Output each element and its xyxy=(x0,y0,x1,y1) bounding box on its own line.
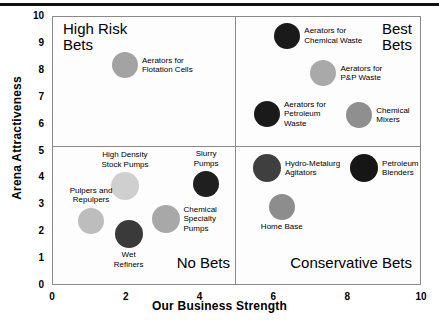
top-divider-rule xyxy=(0,3,439,6)
bubble-aerators-for-flotation-cells[interactable] xyxy=(112,52,138,78)
y-tick-6: 6 xyxy=(22,119,44,129)
bubble-wet-refiners[interactable] xyxy=(115,220,143,248)
quadrant-label-conservative-bets: Conservative Bets xyxy=(290,255,412,271)
quadrant-label-no-bets: No Bets xyxy=(177,255,230,271)
bubble-home-base[interactable] xyxy=(269,194,295,220)
y-tick-4: 4 xyxy=(22,172,44,182)
bubble-label-aerators-for-pp-waste: Aerators for P&P Waste xyxy=(340,64,422,83)
y-tick-2: 2 xyxy=(22,226,44,236)
y-tick-3: 3 xyxy=(22,199,44,209)
bubble-label-aerators-for-flotation-cells: Aerators for Flotation Cells xyxy=(142,56,224,75)
bubble-label-petroleum-blenders: Petroleum Blenders xyxy=(382,159,439,178)
y-tick-0: 0 xyxy=(22,280,44,290)
plot-area: High Risk BetsBest BetsNo BetsConservati… xyxy=(52,16,421,285)
y-tick-10: 10 xyxy=(22,11,44,21)
bubble-petroleum-blenders[interactable] xyxy=(350,154,378,182)
bubble-label-slurry-pumps: Slurry Pumps xyxy=(165,149,247,168)
y-tick-1: 1 xyxy=(22,253,44,263)
bubble-chemical-mixers[interactable] xyxy=(346,102,372,128)
quadrant-label-high-risk-bets: High Risk Bets xyxy=(63,21,127,53)
y-axis-title: Arena Attractiveness xyxy=(10,58,24,218)
y-tick-8: 8 xyxy=(22,65,44,75)
bubble-pulpers-and-repulpers[interactable] xyxy=(78,208,104,234)
bubble-aerators-for-pp-waste[interactable] xyxy=(310,60,336,86)
bubble-label-home-base: Home Base xyxy=(241,222,323,232)
bubble-aerators-for-chemical-waste[interactable] xyxy=(274,23,300,49)
bubble-slurry-pumps[interactable] xyxy=(193,171,219,197)
x-axis-title: Our Business Strength xyxy=(0,299,439,313)
y-tick-5: 5 xyxy=(22,146,44,156)
bubble-label-chemical-mixers: Chemical Mixers xyxy=(376,106,439,125)
y-tick-7: 7 xyxy=(22,92,44,102)
bubble-label-high-density-stock-pumps: High Density Stock Pumps xyxy=(84,150,166,169)
bubble-hydro-metalurg-agitators[interactable] xyxy=(253,154,281,182)
quadrant-label-best-bets: Best Bets xyxy=(382,21,412,53)
bubble-label-aerators-for-chemical-waste: Aerators for Chemical Waste xyxy=(304,26,386,45)
bubble-label-wet-refiners: Wet Refiners xyxy=(88,250,170,269)
quadrant-divider-horizontal xyxy=(53,146,420,147)
bubble-aerators-for-petroleum-waste[interactable] xyxy=(254,101,280,127)
y-tick-9: 9 xyxy=(22,38,44,48)
bubble-label-pulpers-and-repulpers: Pulpers and Repulpers xyxy=(50,186,132,205)
bubble-chemical-specialty-pumps[interactable] xyxy=(152,205,180,233)
